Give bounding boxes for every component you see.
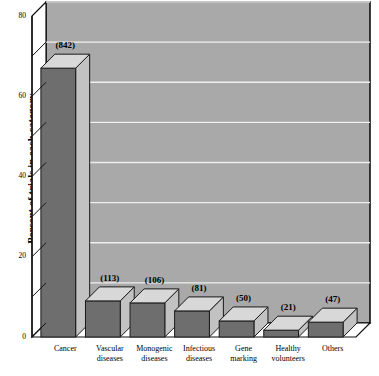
- bar-value-label: (81): [159, 283, 239, 293]
- bar-front-face: [41, 68, 76, 337]
- bar-value-label: (842): [25, 40, 105, 50]
- bar: [41, 54, 90, 337]
- bar: [85, 287, 134, 337]
- bar-front-face: [308, 322, 343, 337]
- x-axis-category-label-line1: Others: [322, 344, 343, 353]
- bar-front-face: [175, 311, 210, 337]
- plot-area: [0, 0, 379, 376]
- bar: [130, 289, 179, 337]
- x-axis-category-label: Others: [293, 344, 373, 354]
- bar-front-face: [264, 330, 299, 337]
- bar-front-face: [85, 301, 120, 337]
- bar-side-face: [76, 54, 90, 337]
- bar-front-face: [130, 303, 165, 337]
- x-axis-category-labels: CancerVasculardiseasesMonogenicdiseasesI…: [0, 340, 379, 376]
- bar-front-face: [219, 321, 254, 337]
- bar-value-label: (47): [293, 294, 373, 304]
- x-axis-category-label-line2: volunteers: [248, 354, 328, 364]
- bar-chart: Percent of trials in each category 02040…: [0, 0, 379, 376]
